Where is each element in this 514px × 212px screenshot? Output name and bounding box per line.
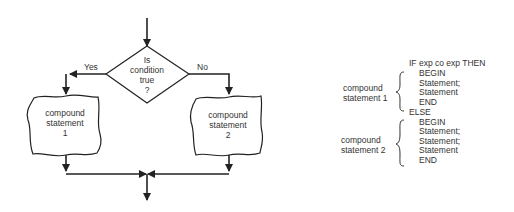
braces bbox=[0, 0, 514, 212]
brace-2 bbox=[396, 120, 404, 166]
brace-1 bbox=[396, 72, 404, 111]
